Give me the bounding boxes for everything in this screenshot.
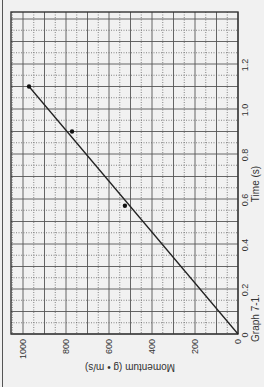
momentum-axis-ticks: 02004006008001000 [18, 339, 243, 359]
time-tick-label: 0 [240, 332, 250, 337]
data-point [27, 84, 31, 88]
time-axis-ticks: 00.20.40.60.81.01.2 [240, 59, 250, 338]
data-point [123, 204, 127, 208]
time-axis-label: Time (s) [250, 166, 261, 202]
time-tick-label: 1.2 [240, 59, 250, 72]
time-tick-label: 0.8 [240, 149, 250, 162]
momentum-time-chart: 00.20.40.60.81.01.2 02004006008001000 Ti… [0, 0, 264, 387]
momentum-tick-label: 400 [147, 339, 157, 354]
page-edge-line [2, 0, 3, 387]
momentum-tick-label: 800 [61, 339, 71, 354]
time-tick-label: 0.2 [240, 284, 250, 297]
plot-frame [11, 12, 238, 334]
data-point [70, 129, 74, 133]
momentum-tick-label: 1000 [18, 339, 28, 359]
momentum-tick-label: 200 [190, 339, 200, 354]
momentum-tick-label: 600 [104, 339, 114, 354]
momentum-axis-label: Momentum (g • m/s) [85, 362, 175, 373]
grid [11, 12, 238, 334]
time-tick-label: 1.0 [240, 104, 250, 117]
graph-caption: Graph 7-1. [250, 294, 261, 342]
momentum-tick-label: 0 [233, 339, 243, 344]
time-tick-label: 0.4 [240, 239, 250, 252]
graph-figure: 00.20.40.60.81.01.2 02004006008001000 Ti… [0, 0, 264, 387]
time-tick-label: 0.6 [240, 194, 250, 207]
